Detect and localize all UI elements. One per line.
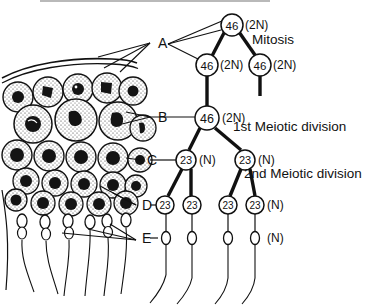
seminiferous-tubule-illustration: 46 46 46 46 23 23 23 23 23 23	[0, 0, 376, 306]
key-label-e: E	[142, 231, 151, 245]
cell-count-spermatid-2: 23	[186, 200, 198, 211]
ploidy-spermatogonium-stem: (2N)	[245, 19, 268, 31]
cell-count-spermatogonium-right: 46	[254, 60, 267, 72]
cell-count-spermatogonium-stem: 46	[226, 20, 239, 32]
cell-count-spermatid-1: 23	[159, 200, 171, 211]
cell-count-secondary-right: 23	[239, 154, 251, 166]
key-label-b: B	[158, 110, 167, 124]
ploidy-mature-sperm: (N)	[267, 232, 284, 244]
ploidy-spermatogonium-left: (2N)	[220, 59, 243, 71]
cell-count-primary-spermatocyte: 46	[200, 112, 214, 126]
cell-count-spermatid-3: 23	[222, 200, 234, 211]
diagram-canvas: 46 46 46 46 23 23 23 23 23 23 (2N) (2N) …	[0, 0, 376, 306]
key-label-a: A	[158, 36, 167, 50]
ploidy-spermatid-4: (N)	[267, 199, 284, 211]
key-label-d: D	[142, 198, 152, 212]
key-label-c: C	[147, 153, 157, 167]
cell-count-spermatogonium-left: 46	[201, 60, 214, 72]
stage-label-mitosis: Mitosis	[252, 33, 294, 47]
stage-label-first-meiotic-division: 1st Meiotic division	[233, 120, 346, 134]
tissue-spermatozoa	[17, 213, 131, 296]
ploidy-secondary-right: (N)	[258, 154, 275, 166]
cell-count-spermatid-4: 23	[249, 200, 261, 211]
ploidy-secondary-left: (N)	[199, 154, 216, 166]
cell-count-secondary-left: 23	[180, 154, 192, 166]
stage-label-second-meiotic-division: 2nd Meiotic division	[244, 167, 362, 181]
ploidy-spermatogonium-right: (2N)	[273, 59, 296, 71]
